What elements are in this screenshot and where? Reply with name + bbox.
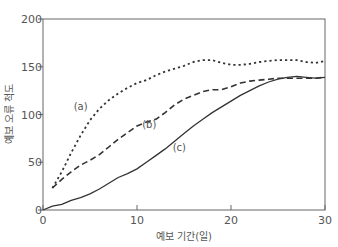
- x-tick-label: 20: [224, 214, 238, 227]
- series-label: (c): [173, 142, 186, 153]
- x-axis: 0102030: [40, 205, 333, 227]
- series-label: (a): [74, 101, 88, 112]
- x-tick-label: 0: [40, 214, 47, 227]
- x-tick-label: 30: [318, 214, 332, 227]
- y-tick-label: 150: [21, 61, 42, 74]
- plot-frame: [43, 19, 325, 210]
- y-tick-label: 100: [21, 109, 42, 122]
- series-group: [43, 60, 325, 210]
- y-tick-label: 200: [21, 13, 42, 26]
- forecast-error-chart: 050100150200 0102030 (a)(b)(c) 예보 기간(일) …: [0, 0, 338, 247]
- x-tick-label: 10: [130, 214, 144, 227]
- series-line-b: [52, 77, 325, 188]
- plot-border: [43, 19, 325, 210]
- series-label: (b): [142, 119, 156, 130]
- y-axis-title: 예보 오류 척도: [4, 84, 15, 144]
- x-axis-title: 예보 기간(일): [156, 231, 212, 242]
- y-axis: 050100150200: [21, 13, 43, 217]
- series-line-a: [52, 60, 325, 188]
- y-tick-label: 50: [28, 156, 42, 169]
